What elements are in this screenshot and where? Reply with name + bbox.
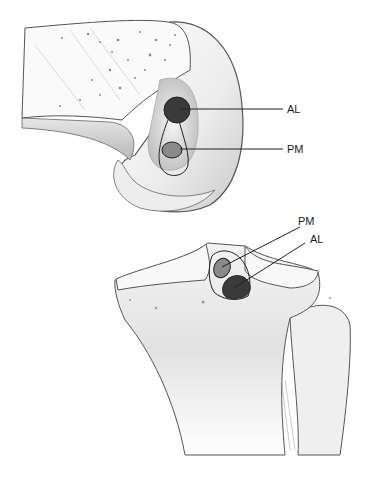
label-tibia-pm: PM: [298, 216, 315, 227]
femur-illustration: [22, 20, 283, 211]
illustration-canvas: [0, 0, 381, 478]
femur-al-bundle: [164, 97, 190, 123]
label-tibia-al: AL: [310, 234, 323, 245]
femur-pm-bundle: [162, 142, 182, 158]
anatomical-figure: AL PM PM AL: [0, 0, 381, 478]
label-femur-pm: PM: [287, 144, 304, 155]
tibia-illustration: [115, 227, 351, 455]
label-femur-al: AL: [287, 104, 300, 115]
